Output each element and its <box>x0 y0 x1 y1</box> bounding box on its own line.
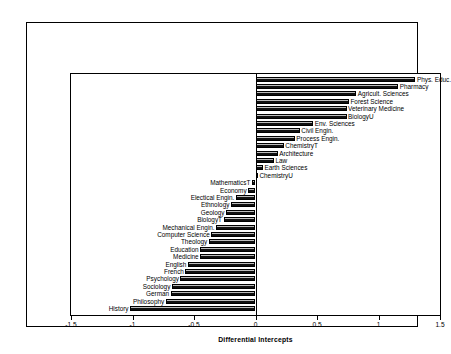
bar-row: French <box>71 268 440 275</box>
bar-row: Theology <box>71 239 440 246</box>
bar-category-label: Theology <box>181 238 207 245</box>
bar-category-label: Process Engin. <box>296 135 339 142</box>
bar-row: Env. Sciences <box>71 120 440 127</box>
x-axis-tick-label: 1 <box>377 321 381 328</box>
bar[interactable] <box>256 77 416 82</box>
bar-category-label: Sociology <box>143 283 171 290</box>
plot-area: Phys. Educ.PharmacyAgricult. SciencesFor… <box>70 73 441 316</box>
bar-row: Psychology <box>71 276 440 283</box>
x-axis-tick-label: -1.5 <box>65 321 76 328</box>
bar[interactable] <box>130 306 255 311</box>
bar-category-label: Electical Engin. <box>191 194 235 201</box>
bar[interactable] <box>256 99 349 104</box>
bar-row: Veterinary Medicine <box>71 106 440 113</box>
bar[interactable] <box>236 195 256 200</box>
bar[interactable] <box>256 91 357 96</box>
bar[interactable] <box>200 247 255 252</box>
bars-layer: Phys. Educ.PharmacyAgricult. SciencesFor… <box>71 74 440 315</box>
bar-category-label: ChemistryU <box>259 172 292 179</box>
bar-category-label: Mechanical Engin. <box>162 224 214 231</box>
bar-category-label: MathematicsT <box>210 179 250 186</box>
x-axis: -1.5-1-0.500.511.5 <box>70 316 441 336</box>
bar[interactable] <box>166 299 256 304</box>
bar-row: Medicine <box>71 254 440 261</box>
bar[interactable] <box>256 151 278 156</box>
x-axis-tick <box>71 316 72 320</box>
bar-category-label: Phys. Educ. <box>417 76 451 83</box>
bar-row: Education <box>71 246 440 253</box>
figure-outer-frame: Phys. Educ.PharmacyAgricult. SciencesFor… <box>26 22 418 327</box>
bar[interactable] <box>209 239 256 244</box>
x-axis-tick <box>133 316 134 320</box>
x-axis-tick-label: 0 <box>254 321 258 328</box>
bar[interactable] <box>216 225 255 230</box>
bar[interactable] <box>256 106 347 111</box>
bar-category-label: Architecture <box>279 150 313 157</box>
bar-row: Earth Sciences <box>71 165 440 172</box>
bar-category-label: Psychology <box>146 275 179 282</box>
bar-category-label: Ethnology <box>201 201 229 208</box>
bar[interactable] <box>256 84 399 89</box>
bar-category-label: Civil Engin. <box>301 127 333 134</box>
bar-category-label: Env. Sciences <box>315 120 355 127</box>
bar-category-label: Forest Science <box>350 98 393 105</box>
bar[interactable] <box>180 276 255 281</box>
bar-category-label: Law <box>275 157 287 164</box>
bar[interactable] <box>256 128 300 133</box>
bar[interactable] <box>248 188 255 193</box>
bar-row: MathematicsT <box>71 180 440 187</box>
bar-category-label: French <box>164 268 184 275</box>
bar-row: German <box>71 291 440 298</box>
x-axis-tick <box>440 316 441 320</box>
bar[interactable] <box>200 254 255 259</box>
bar[interactable] <box>224 217 256 222</box>
bar[interactable] <box>256 173 258 178</box>
bar[interactable] <box>171 291 256 296</box>
bar-row: Sociology <box>71 283 440 290</box>
x-axis-tick <box>317 316 318 320</box>
bar[interactable] <box>256 165 263 170</box>
bar[interactable] <box>226 210 256 215</box>
bar-category-label: Veterinary Medicine <box>348 105 404 112</box>
bar-row: Mechanical Engin. <box>71 224 440 231</box>
bar-category-label: BiologyU <box>348 113 374 120</box>
x-axis-tick-label: 0.5 <box>312 321 321 328</box>
bar-row: Computer Science <box>71 231 440 238</box>
x-axis-tick <box>256 316 257 320</box>
bar-category-label: Pharmacy <box>400 83 429 90</box>
bar[interactable] <box>256 143 284 148</box>
bar-row: Geology <box>71 209 440 216</box>
x-axis-title: Differential Intercepts <box>70 336 441 343</box>
bar-category-label: ChemistryT <box>285 142 318 149</box>
bar-row: BiologyU <box>71 113 440 120</box>
bar[interactable] <box>211 232 255 237</box>
bar-row: BiologyT <box>71 217 440 224</box>
bar[interactable] <box>256 121 314 126</box>
bar-row: Process Engin. <box>71 135 440 142</box>
bar[interactable] <box>256 136 295 141</box>
bar-category-label: Agricult. Sciences <box>358 90 409 97</box>
bar[interactable] <box>252 180 256 185</box>
bar-row: History <box>71 305 440 312</box>
bar-category-label: Computer Science <box>157 231 210 238</box>
bar[interactable] <box>185 269 255 274</box>
bar[interactable] <box>172 284 256 289</box>
bar-category-label: Medicine <box>173 253 199 260</box>
x-axis-tick <box>379 316 380 320</box>
bar-category-label: BiologyT <box>197 216 222 223</box>
bar[interactable] <box>256 114 347 119</box>
bar-row: English <box>71 261 440 268</box>
bar-category-label: Education <box>170 246 198 253</box>
bar-category-label: History <box>109 305 129 312</box>
x-axis-tick-label: 1.5 <box>435 321 444 328</box>
x-axis-tick-label: -1 <box>130 321 136 328</box>
bar-row: Economy <box>71 187 440 194</box>
bar-row: Electical Engin. <box>71 194 440 201</box>
bar[interactable] <box>256 158 274 163</box>
bar[interactable] <box>188 262 256 267</box>
bar[interactable] <box>231 202 256 207</box>
bar-row: Phys. Educ. <box>71 76 440 83</box>
bar-category-label: English <box>165 261 186 268</box>
bar-row: Ethnology <box>71 202 440 209</box>
